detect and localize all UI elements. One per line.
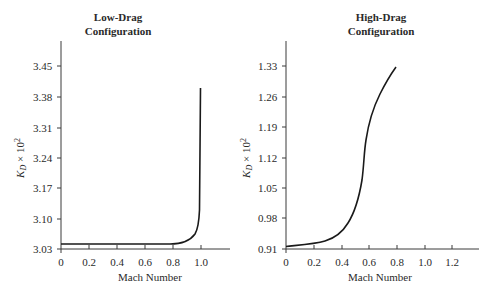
- low-drag-chart: Low-Drag Configuration 3.45 3.38 3.31 3.…: [13, 11, 230, 283]
- chart-title-line1: High-Drag: [356, 11, 407, 23]
- y-tick-label: 3.38: [33, 91, 53, 103]
- x-axis-label: Mach Number: [348, 271, 412, 283]
- y-tick-label: 3.45: [33, 60, 53, 72]
- y-tick-label: 3.03: [33, 243, 53, 255]
- x-ticks: 0 0.2 0.4 0.6 0.8 1.0: [58, 245, 208, 268]
- y-ticks: 3.45 3.38 3.31 3.24 3.17 3.10 3.03: [33, 60, 61, 255]
- chart-title-line1: Low-Drag: [94, 11, 143, 23]
- y-axis-label: KD × 102: [13, 138, 28, 179]
- x-tick-label: 0.4: [335, 256, 349, 268]
- chart-title-line2: Configuration: [85, 25, 152, 37]
- y-tick-label: 1.12: [258, 152, 277, 164]
- x-tick-label: 1.0: [418, 256, 432, 268]
- y-axis-label: KD × 102: [239, 138, 254, 179]
- x-tick-label: 0.8: [390, 256, 404, 268]
- x-tick-label: 0.2: [307, 256, 321, 268]
- x-tick-label: 0.6: [138, 256, 152, 268]
- x-tick-label: 0.6: [362, 256, 376, 268]
- y-ticks: 1.33 1.26 1.19 1.12 1.05 0.98 0.91: [258, 60, 286, 255]
- chart-title-line2: Configuration: [348, 25, 415, 37]
- y-tick-label: 3.17: [33, 182, 53, 194]
- y-tick-label: 1.19: [258, 121, 278, 133]
- chart-canvas: Low-Drag Configuration 3.45 3.38 3.31 3.…: [0, 0, 499, 302]
- y-tick-label: 0.91: [258, 243, 277, 255]
- svg-text:KD × 102: KD × 102: [13, 138, 28, 179]
- low-drag-curve: [61, 88, 201, 244]
- y-tick-label: 3.24: [33, 152, 53, 164]
- svg-text:KD × 102: KD × 102: [239, 138, 254, 179]
- x-axis-label: Mach Number: [118, 271, 182, 283]
- y-tick-label: 1.33: [258, 60, 278, 72]
- x-tick-label: 0.4: [110, 256, 124, 268]
- x-ticks: 0 0.2 0.4 0.6 0.8 1.0 1.2: [283, 245, 459, 268]
- x-tick-label: 0.2: [82, 256, 96, 268]
- high-drag-chart: High-Drag Configuration 1.33 1.26 1.19 1…: [239, 11, 479, 283]
- y-tick-label: 3.10: [33, 213, 53, 225]
- high-drag-curve: [286, 67, 396, 247]
- x-tick-label: 0: [283, 256, 289, 268]
- y-tick-label: 1.26: [258, 91, 278, 103]
- x-tick-label: 0.8: [166, 256, 180, 268]
- y-tick-label: 1.05: [258, 182, 278, 194]
- y-tick-label: 0.98: [258, 212, 278, 224]
- y-tick-label: 3.31: [33, 122, 52, 134]
- x-tick-label: 1.0: [194, 256, 208, 268]
- x-tick-label: 1.2: [445, 256, 459, 268]
- x-tick-label: 0: [58, 256, 64, 268]
